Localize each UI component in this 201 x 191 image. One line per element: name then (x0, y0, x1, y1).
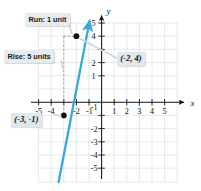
y-axis-label: y (106, 6, 111, 16)
x-tick-label-2: 2 (125, 107, 129, 116)
rise-annotation-label: Rise: 5 units (4, 50, 54, 63)
graph-figure: -5 -4 -2 -1 1 2 3 4 5 5 4 2 1 -1 -2 -3 -… (0, 0, 201, 191)
plotted-line (59, 21, 90, 182)
x-tick-label-4: 4 (150, 107, 154, 116)
y-tick-label-1: 1 (92, 72, 96, 81)
y-tick-label--5: -5 (91, 164, 98, 173)
y-tick-label-2: 2 (92, 59, 96, 68)
point-label-minus3-minus1: (-3, -1) (11, 113, 42, 127)
y-tick-label--2: -2 (91, 125, 98, 134)
data-point-minus2-4 (74, 33, 80, 39)
rise-callout-leader (61, 60, 63, 70)
x-tick-label-1: 1 (112, 107, 116, 116)
y-tick-label--4: -4 (91, 151, 98, 160)
x-axis-label: x (190, 98, 195, 108)
x-tick-label-5: 5 (163, 107, 167, 116)
data-point-minus3-minus1 (61, 113, 67, 119)
y-tick-label-4: 4 (92, 32, 96, 41)
y-tick-label--3: -3 (91, 138, 98, 147)
x-tick-label-3: 3 (137, 107, 141, 116)
y-tick-label--1: -1 (91, 103, 98, 112)
y-tick-label-5: 5 (92, 19, 96, 28)
coordinate-plane: -5 -4 -2 -1 1 2 3 4 5 5 4 2 1 -1 -2 -3 -… (0, 0, 201, 191)
run-annotation-label: Run: 1 unit (25, 13, 70, 26)
run-callout-leader (69, 24, 72, 34)
point-label-minus2-4: (-2, 4) (117, 52, 145, 66)
x-tick-label--4: -4 (48, 107, 55, 116)
